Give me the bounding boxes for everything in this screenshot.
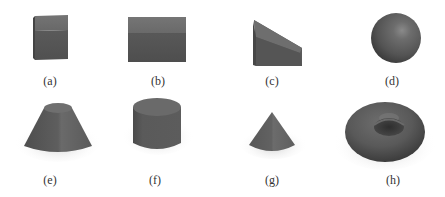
truncated-cone-shape bbox=[14, 98, 102, 164]
caption-a: (a) bbox=[43, 75, 56, 87]
caption-h: (h) bbox=[386, 174, 400, 186]
shape-primitives-figure: (a) (b) (c) (d) (e) (f) (g) (h) bbox=[0, 0, 445, 197]
caption-g: (g) bbox=[265, 174, 279, 186]
caption-b: (b) bbox=[151, 75, 165, 87]
wedge-shape bbox=[248, 15, 308, 71]
cube-shape bbox=[30, 10, 74, 66]
caption-c: (c) bbox=[265, 75, 278, 87]
cone-shape bbox=[238, 105, 308, 161]
sphere-shape bbox=[368, 9, 424, 67]
caption-f: (f) bbox=[149, 174, 161, 186]
box-shape bbox=[124, 12, 192, 66]
torus-shape bbox=[333, 96, 437, 172]
caption-d: (d) bbox=[385, 75, 399, 87]
caption-e: (e) bbox=[43, 174, 56, 186]
cylinder-shape bbox=[120, 93, 194, 159]
